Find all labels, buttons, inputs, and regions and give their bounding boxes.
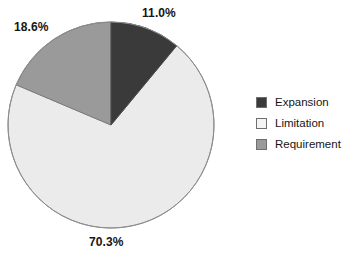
chart-legend: Expansion Limitation Requirement <box>256 92 354 155</box>
legend-swatch-limitation <box>256 118 267 129</box>
legend-label-requirement: Requirement <box>275 139 341 151</box>
pie-chart-figure: 11.0% 18.6% 70.3% Expansion Limitation R… <box>0 0 356 259</box>
legend-item-requirement[interactable]: Requirement <box>256 134 354 155</box>
legend-swatch-requirement <box>256 139 267 150</box>
legend-label-expansion: Expansion <box>275 97 329 109</box>
slice-label-requirement: 18.6% <box>14 20 49 34</box>
slice-label-expansion: 11.0% <box>142 6 176 20</box>
legend-item-expansion[interactable]: Expansion <box>256 92 354 113</box>
legend-swatch-expansion <box>256 97 267 108</box>
slice-label-limitation: 70.3% <box>89 235 124 249</box>
pie-slices <box>8 22 214 228</box>
legend-item-limitation[interactable]: Limitation <box>256 113 354 134</box>
legend-label-limitation: Limitation <box>275 118 324 130</box>
